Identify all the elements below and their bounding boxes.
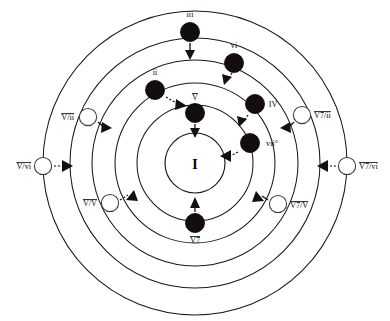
- arrowhead-vi-to-ii: [222, 74, 232, 85]
- edge-viio-to-I: [230, 152, 238, 156]
- label-V7: V7: [190, 236, 200, 245]
- node-V7[interactable]: [186, 214, 205, 233]
- label-group: I iii vi ii IV V vii° V7 V/ii V7/ii V/vi…: [16, 10, 378, 245]
- label-tonic-I: I: [192, 156, 198, 172]
- node-vi[interactable]: [225, 54, 244, 73]
- node-V7-of-vi[interactable]: [338, 157, 355, 174]
- node-V7-of-V[interactable]: [269, 195, 286, 212]
- diagram-canvas: I iii vi ii IV V vii° V7 V/ii V7/ii V/vi…: [0, 0, 390, 321]
- label-IV: IV: [269, 100, 278, 109]
- arrowhead-Vvi-to-Vii: [62, 160, 73, 172]
- arrowhead-V7ii-to-IV: [280, 122, 291, 133]
- label-V: V: [192, 93, 198, 102]
- arrowhead-V7-to-I: [190, 197, 200, 208]
- edge-group: [54, 43, 336, 212]
- tonal-flow-diagram: I iii vi ii IV V vii° V7 V/ii V7/ii V/vi…: [0, 0, 390, 321]
- label-viio: vii°: [266, 139, 278, 148]
- label-V-of-ii: V/ii: [61, 113, 74, 122]
- node-V-of-vi[interactable]: [34, 157, 51, 174]
- node-ii[interactable]: [146, 81, 165, 100]
- label-V-of-vi: V/vi: [16, 162, 31, 171]
- label-V7-of-V: V7/V: [290, 201, 308, 210]
- arrowhead-viio-to-I: [220, 150, 231, 162]
- node-V[interactable]: [186, 104, 205, 123]
- label-V7-of-vi: V7/vi: [359, 162, 378, 171]
- node-V-of-ii[interactable]: [79, 108, 96, 125]
- arrowhead-Vii-to-ii: [101, 122, 112, 133]
- label-vi: vi: [231, 41, 238, 50]
- arrowhead-ii-to-V: [175, 99, 187, 110]
- node-viio[interactable]: [241, 134, 260, 153]
- label-V-of-V: V/V: [83, 199, 97, 208]
- arrowhead-iii-to-vi: [185, 50, 195, 60]
- arrowhead-V7vi-to-V7ii: [317, 160, 328, 172]
- label-iii: iii: [187, 10, 195, 19]
- label-ii: ii: [153, 68, 158, 77]
- node-V7-of-ii[interactable]: [293, 106, 310, 123]
- node-V-of-V[interactable]: [101, 194, 118, 211]
- node-IV[interactable]: [246, 95, 265, 114]
- label-V7-of-ii: V7/ii: [314, 111, 332, 120]
- node-iii[interactable]: [181, 23, 200, 42]
